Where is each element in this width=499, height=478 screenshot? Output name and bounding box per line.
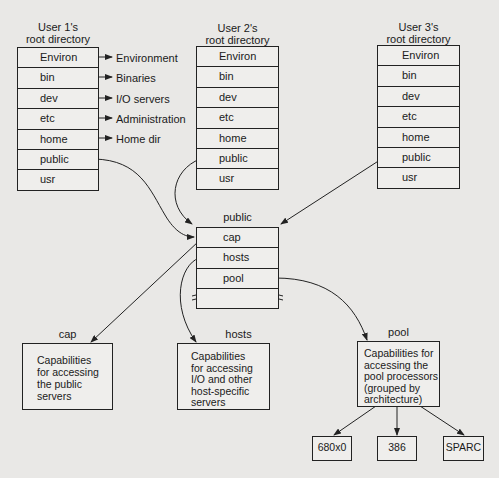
public-entry-hosts[interactable]: hosts [197, 248, 278, 268]
user1-title: User 1's root directory [17, 21, 99, 45]
user1-root-directory: Environ bin dev etc home public usr [17, 47, 99, 191]
user3-entry-public[interactable]: public [378, 148, 459, 168]
user2-entry-home[interactable]: home [197, 129, 278, 149]
public-entry-pool[interactable]: pool [197, 269, 278, 289]
arch-680x0: 680x0 [312, 436, 352, 461]
user2-entry-usr[interactable]: usr [197, 169, 278, 189]
user3-entry-usr[interactable]: usr [378, 168, 459, 188]
user3-title-line2: root directory [377, 33, 460, 45]
pool-line: pool processors [364, 371, 439, 383]
user3-entry-etc[interactable]: etc [378, 107, 459, 127]
arch-386: 386 [377, 436, 417, 461]
hosts-line: I/O and other [191, 374, 269, 386]
user1-entry-bin[interactable]: bin [18, 68, 98, 88]
target-administration: Administration [116, 113, 186, 125]
user2-title: User 2's root directory [196, 22, 279, 46]
user1-entry-public[interactable]: public [18, 150, 98, 170]
user1-entry-environ[interactable]: Environ [18, 48, 98, 68]
pool-line: Capabilities for [364, 348, 439, 360]
public-entry-cap[interactable]: cap [197, 228, 278, 248]
user2-root-directory: Environ bin dev etc home public usr [196, 46, 279, 190]
user2-entry-etc[interactable]: etc [197, 108, 278, 128]
target-io-servers: I/O servers [116, 93, 170, 105]
user3-entry-bin[interactable]: bin [378, 66, 459, 86]
user3-entry-environ[interactable]: Environ [378, 46, 459, 66]
user1-entry-etc[interactable]: etc [18, 109, 98, 129]
user2-entry-public[interactable]: public [197, 149, 278, 169]
cap-line: the public [37, 378, 112, 390]
hosts-line: Capabilities [191, 351, 269, 363]
user2-entry-environ[interactable]: Environ [197, 47, 278, 67]
cap-line: for accessing [37, 366, 112, 378]
user1-title-line1: User 1's [17, 21, 99, 33]
user2-entry-bin[interactable]: bin [197, 67, 278, 87]
cap-line: servers [37, 390, 112, 402]
pool-capabilities-box: Capabilities for accessing the pool proc… [357, 341, 440, 407]
target-binaries: Binaries [116, 72, 156, 84]
user3-root-directory: Environ bin dev etc home public usr [377, 45, 460, 189]
user3-title: User 3's root directory [377, 21, 460, 45]
pool-line: architecture) [364, 394, 439, 406]
public-dir-title: public [196, 211, 279, 223]
user2-entry-dev[interactable]: dev [197, 88, 278, 108]
cap-line: Capabilities [37, 354, 112, 366]
user3-entry-dev[interactable]: dev [378, 87, 459, 107]
public-directory: cap hosts pool [196, 227, 279, 309]
user1-entry-home[interactable]: home [18, 130, 98, 150]
pool-box-title: pool [357, 326, 440, 338]
target-home-dir: Home dir [116, 133, 161, 145]
user1-entry-dev[interactable]: dev [18, 89, 98, 109]
hosts-capabilities-box: Capabilities for accessing I/O and other… [177, 343, 270, 410]
user2-title-line2: root directory [196, 34, 279, 46]
user2-title-line1: User 2's [196, 22, 279, 34]
cap-box-title: cap [22, 328, 113, 340]
arch-sparc: SPARC [443, 436, 484, 461]
user1-title-line2: root directory [17, 33, 99, 45]
target-environment: Environment [116, 52, 178, 64]
cap-capabilities-box: Capabilities for accessing the public se… [22, 343, 113, 410]
user3-entry-home[interactable]: home [378, 128, 459, 148]
hosts-line: servers [191, 397, 269, 409]
user1-entry-usr[interactable]: usr [18, 170, 98, 190]
user3-title-line1: User 3's [377, 21, 460, 33]
hosts-box-title: hosts [177, 328, 270, 340]
